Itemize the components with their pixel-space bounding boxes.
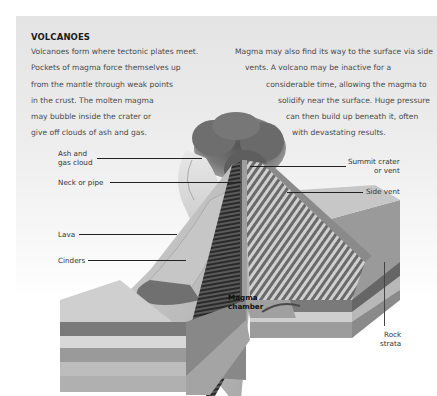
leader-line-lava: [79, 234, 177, 235]
label-line: Summit crater: [348, 157, 400, 166]
label-rock-strata: Rock strata: [380, 330, 401, 348]
paragraph-line: with devastating results.: [292, 125, 437, 141]
paragraph-line: Volcanoes form where tectonic plates mee…: [31, 44, 198, 60]
label-line: chamber: [228, 302, 263, 311]
paragraph-line: Magma may also find its way to the surfa…: [235, 44, 433, 60]
label-ash-cloud: Ash and gas cloud: [58, 149, 92, 167]
label-lava: Lava: [58, 230, 75, 239]
paragraph-right: Magma may also find its way to the surfa…: [235, 44, 433, 142]
paragraph-left: Volcanoes form where tectonic plates mee…: [31, 44, 198, 142]
paragraph-line: in the crust. The molten magma: [31, 93, 198, 109]
label-cinders: Cinders: [58, 256, 85, 265]
label-line: Ash and: [58, 149, 92, 158]
leader-line-rock-strata: [384, 262, 385, 326]
paragraph-line: may bubble inside the crater or: [31, 109, 198, 125]
paragraph-line: vents. A volcano may be inactive for a: [245, 60, 437, 76]
paragraph-line: can then build up beneath it, often: [286, 109, 437, 125]
label-side-vent: Side vent: [366, 187, 400, 196]
label-line: Magma: [228, 293, 263, 302]
label-neck: Neck or pipe: [58, 178, 103, 187]
label-summit-crater: Summit crater or vent: [348, 157, 400, 175]
paragraph-line: give off clouds of ash and gas.: [31, 125, 198, 141]
paragraph-line: Pockets of magma force themselves up: [31, 60, 198, 76]
leader-line-summit: [250, 166, 346, 167]
label-line: gas cloud: [58, 158, 92, 167]
leader-line-neck: [110, 182, 241, 183]
label-line: or vent: [348, 166, 400, 175]
paragraph-line: solidify near the surface. Huge pressure: [278, 93, 437, 109]
page-title: VOLCANOES: [31, 32, 90, 42]
leader-line-side-vent: [287, 192, 363, 193]
paragraph-line: considerable time, allowing the magma to: [266, 77, 437, 93]
paragraph-line: from the mantle through weak points: [31, 77, 198, 93]
leader-line-cinders: [88, 260, 186, 261]
label-line: Rock: [380, 330, 401, 339]
leader-line-ash: [97, 158, 202, 159]
label-line: strata: [380, 339, 401, 348]
label-magma-chamber: Magma chamber: [228, 293, 263, 311]
